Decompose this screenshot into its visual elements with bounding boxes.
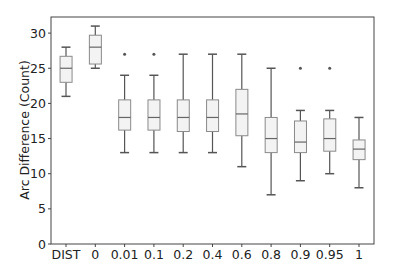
x-tick-label: 0.6	[232, 247, 252, 262]
x-axis-ticks: DIST00.010.10.20.40.60.80.90.951	[52, 244, 363, 262]
iqr-box	[207, 100, 219, 132]
outlier-point	[299, 67, 302, 70]
x-tick-label: 0.2	[173, 247, 193, 262]
x-tick-label: 0.8	[261, 247, 281, 262]
box-plot-chart: 051015202530 DIST00.010.10.20.40.60.80.9…	[0, 0, 395, 278]
iqr-box	[265, 117, 277, 152]
x-tick-label: 1	[355, 247, 363, 262]
iqr-box	[89, 35, 101, 64]
iqr-box	[119, 100, 131, 130]
iqr-box	[324, 119, 336, 151]
plot-area	[60, 26, 365, 195]
iqr-box	[177, 100, 189, 132]
y-tick-label: 20	[30, 96, 46, 111]
iqr-box	[353, 140, 365, 160]
outlier-point	[152, 53, 155, 56]
y-tick-label: 30	[30, 26, 46, 41]
outlier-point	[123, 53, 126, 56]
box-0.9	[294, 67, 306, 181]
box-0.4	[207, 54, 219, 152]
iqr-box	[294, 121, 306, 153]
box-0.01	[119, 53, 131, 153]
x-tick-label: 0.01	[111, 247, 139, 262]
x-tick-label: 0.4	[203, 247, 223, 262]
iqr-box	[148, 100, 160, 130]
iqr-box	[60, 56, 72, 82]
x-tick-label: 0.1	[144, 247, 164, 262]
y-axis-ticks: 051015202530	[30, 26, 51, 252]
iqr-box	[236, 89, 248, 135]
box-0.1	[148, 53, 160, 153]
box-0	[89, 26, 101, 68]
y-tick-label: 0	[38, 237, 46, 252]
y-tick-label: 10	[30, 166, 46, 181]
x-tick-label: 0.9	[290, 247, 310, 262]
x-tick-label: 0.95	[316, 247, 344, 262]
x-tick-label: 0	[91, 247, 99, 262]
x-tick-label: DIST	[52, 247, 81, 262]
box-0.95	[324, 67, 336, 174]
box-0.8	[265, 68, 277, 195]
y-tick-label: 5	[38, 201, 46, 216]
box-0.6	[236, 54, 248, 166]
y-axis-label: Arc Difference (Count)	[17, 60, 32, 200]
box-DIST	[60, 47, 72, 96]
y-tick-label: 25	[30, 61, 46, 76]
outlier-point	[328, 67, 331, 70]
box-1	[353, 117, 365, 187]
box-0.2	[177, 54, 189, 152]
y-tick-label: 15	[30, 131, 46, 146]
